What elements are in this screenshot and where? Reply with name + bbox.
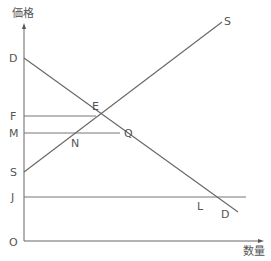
supply-curve-label: S	[224, 15, 231, 28]
price-label-m: M	[9, 127, 19, 140]
price-label-d: D	[9, 52, 17, 65]
demand-curve-label: D	[221, 208, 229, 221]
supply-curve	[24, 22, 222, 172]
x-axis-title: 数量	[243, 245, 265, 258]
supply-demand-diagram: 価格 数量 O D F M S J D S E N Q L	[0, 0, 271, 261]
point-label-l: L	[197, 200, 204, 213]
x-axis-arrow-icon	[258, 239, 264, 243]
point-label-e: E	[92, 100, 99, 113]
y-axis-arrow-icon	[22, 23, 26, 29]
y-axis-title: 価格	[12, 6, 34, 20]
point-label-n: N	[71, 137, 79, 150]
origin-label: O	[9, 236, 18, 249]
price-label-f: F	[10, 110, 16, 123]
price-label-j: J	[10, 191, 14, 204]
point-label-q: Q	[124, 127, 133, 140]
price-label-s: S	[10, 166, 17, 179]
